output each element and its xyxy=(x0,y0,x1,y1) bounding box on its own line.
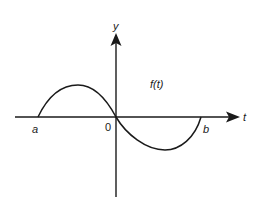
function-plot: y t 0 a b f(t) xyxy=(0,0,259,209)
point-b-label: b xyxy=(203,123,209,135)
origin-label: 0 xyxy=(105,121,111,133)
curve-label: f(t) xyxy=(150,78,164,90)
point-a-label: a xyxy=(32,123,38,135)
y-axis-label: y xyxy=(112,20,120,32)
x-axis-label: t xyxy=(243,111,247,123)
